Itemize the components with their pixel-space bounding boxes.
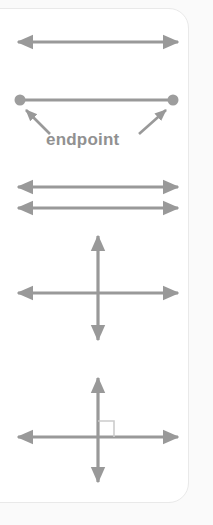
endpoint-callout-arrow-right (139, 110, 166, 134)
endpoint-dot-right (168, 95, 179, 106)
right-angle-marker-icon (98, 421, 114, 437)
figure-intersecting-lines (18, 236, 178, 340)
figure-parallel-lines (18, 187, 178, 208)
figure-line-segment (15, 95, 179, 135)
diagram-stage (0, 0, 213, 525)
endpoint-dot-left (15, 95, 26, 106)
endpoint-label: endpoint (46, 130, 119, 150)
figure-perpendicular-lines (18, 378, 178, 482)
